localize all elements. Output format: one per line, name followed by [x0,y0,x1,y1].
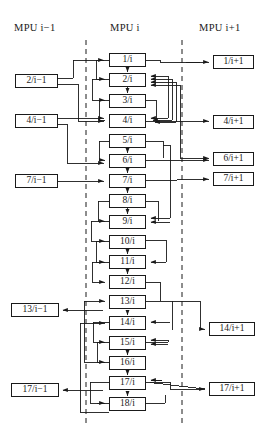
block-1-i[interactable]: 1/i [109,53,146,67]
block-7-i[interactable]: 7/i [109,174,146,188]
block-10-i[interactable]: 10/i [109,235,146,249]
block-4-iprev[interactable]: 4/i−1 [15,114,58,128]
block-7-inext[interactable]: 7/i+1 [213,172,254,186]
block-13-i[interactable]: 13/i [109,295,146,309]
diagram-canvas: MPU i−1 MPU i MPU i+1 1/i 2/i 3/i 4/i 5/… [0,0,264,431]
block-5-i[interactable]: 5/i [109,134,146,148]
block-2-iprev[interactable]: 2/i−1 [15,74,58,88]
block-9-i[interactable]: 9/i [109,215,146,229]
header-mpu-prev: MPU i−1 [14,22,56,33]
block-12-i[interactable]: 12/i [109,275,146,289]
block-14-i[interactable]: 14/i [109,316,146,330]
header-mpu-next: MPU i+1 [199,22,241,33]
block-16-i[interactable]: 16/i [109,356,146,370]
block-17-iprev[interactable]: 17/i−1 [11,383,59,397]
block-2-i[interactable]: 2/i [109,73,146,87]
block-11-i[interactable]: 11/i [109,255,146,269]
block-3-i[interactable]: 3/i [109,94,146,108]
block-17-i[interactable]: 17/i [109,376,146,390]
block-4-i[interactable]: 4/i [109,114,146,128]
block-18-i[interactable]: 18/i [109,397,146,411]
block-15-i[interactable]: 15/i [109,336,146,350]
header-mpu-current: MPU i [110,22,140,33]
block-6-inext[interactable]: 6/i+1 [213,152,254,166]
block-8-i[interactable]: 8/i [109,194,146,208]
block-7-iprev[interactable]: 7/i−1 [15,174,58,188]
block-14-inext[interactable]: 14/i+1 [209,322,255,336]
block-13-iprev[interactable]: 13/i−1 [11,303,59,317]
block-4-inext[interactable]: 4/i+1 [213,115,254,129]
block-6-i[interactable]: 6/i [109,154,146,168]
block-1-inext[interactable]: 1/i+1 [213,55,254,69]
block-17-inext[interactable]: 17/i+1 [209,382,255,396]
